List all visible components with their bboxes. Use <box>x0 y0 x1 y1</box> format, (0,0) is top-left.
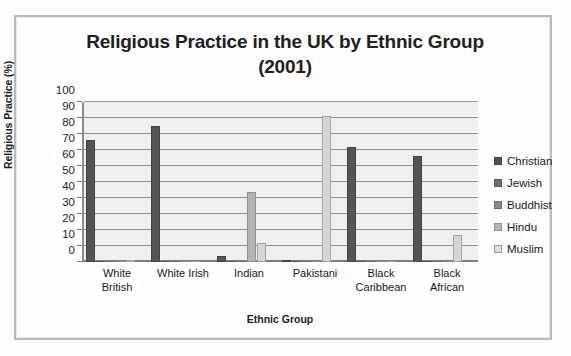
legend-swatch-muslim-icon <box>494 245 502 253</box>
bar-muslim-black-african <box>453 235 462 262</box>
y-axis-tick-label: 100 <box>56 84 75 96</box>
x-axis-tick-labels: WhiteBritishWhite IrishIndianPakistaniBl… <box>84 267 480 294</box>
legend-label: Christian <box>507 155 552 167</box>
bar-jewish-white-british <box>96 261 105 262</box>
legend-label: Muslim <box>507 243 543 255</box>
bar-buddhist-white-irish <box>171 261 180 262</box>
x-axis-tick-label-line: Indian <box>216 267 282 281</box>
x-axis-tick-label-line: African <box>414 281 480 295</box>
x-axis-tick-label-pakistani: Pakistani <box>282 267 348 294</box>
y-axis-tick-mark <box>77 165 82 166</box>
bar-group-white-british <box>86 102 151 262</box>
x-axis-tick-label-line: White Irish <box>150 267 216 281</box>
y-axis-tick-label: 20 <box>62 212 75 224</box>
bar-jewish-black-african <box>423 261 432 262</box>
legend-item-christian[interactable]: Christian <box>494 155 571 167</box>
legend-label: Jewish <box>507 177 542 189</box>
x-axis-tick-label-white-british: WhiteBritish <box>84 267 150 294</box>
x-axis-tick-label-line: White <box>84 267 150 281</box>
bar-christian-pakistani <box>282 260 291 262</box>
y-axis-tick-mark <box>77 133 82 134</box>
x-axis-tick-label-line: Black <box>348 267 414 281</box>
legend-item-buddhist[interactable]: Buddhist <box>494 199 571 211</box>
y-axis-tick-mark <box>77 101 82 102</box>
plot-wrap: 1009080706050403020100 <box>82 102 478 262</box>
legend-swatch-jewish-icon <box>494 179 502 187</box>
y-axis-tick-label: 80 <box>62 116 75 128</box>
y-axis-tick-mark <box>77 149 82 150</box>
chart-title-line-2: (2001) <box>46 54 524 79</box>
y-axis-tick-mark <box>77 213 82 214</box>
chart-page: Religious Practice in the UK by Ethnic G… <box>0 0 571 356</box>
x-axis-tick-label-white-irish: White Irish <box>150 267 216 294</box>
bars-layer <box>86 102 478 262</box>
y-axis-tick-label: 90 <box>62 100 75 112</box>
x-axis-title: Ethnic Group <box>82 313 478 325</box>
bar-jewish-pakistani <box>292 261 301 262</box>
bar-buddhist-indian <box>237 261 246 262</box>
x-axis-tick-label-indian: Indian <box>216 267 282 294</box>
bar-muslim-white-irish <box>191 261 200 262</box>
bar-group-black-african <box>413 102 478 262</box>
bar-christian-indian <box>217 256 226 262</box>
bar-buddhist-pakistani <box>302 261 311 262</box>
bar-hindu-black-african <box>443 261 452 262</box>
y-axis-tick-label: 40 <box>62 180 75 192</box>
y-axis-tick-mark <box>77 197 82 198</box>
bar-group-pakistani <box>282 102 347 262</box>
bar-hindu-black-caribbean <box>377 261 386 262</box>
bar-hindu-pakistani <box>312 261 321 262</box>
x-axis-tick-label-line: Pakistani <box>282 267 348 281</box>
y-axis-tick-mark <box>77 229 82 230</box>
bar-group-indian <box>217 102 282 262</box>
bar-hindu-white-irish <box>181 261 190 262</box>
bar-buddhist-white-british <box>106 261 115 262</box>
bar-buddhist-black-caribbean <box>367 261 376 262</box>
legend-swatch-hindu-icon <box>494 223 502 231</box>
bar-christian-white-british <box>86 140 95 262</box>
x-axis-tick-label-line: Caribbean <box>348 281 414 295</box>
x-axis-tick-label-black-caribbean: BlackCaribbean <box>348 267 414 294</box>
bar-jewish-black-caribbean <box>357 261 366 262</box>
y-axis-tick-label: 0 <box>69 244 75 256</box>
legend-swatch-christian-icon <box>494 157 502 165</box>
legend-label: Buddhist <box>507 199 552 211</box>
x-axis-tick-label-black-african: BlackAfrican <box>414 267 480 294</box>
y-axis-tick-mark <box>77 245 82 246</box>
bar-muslim-black-caribbean <box>387 261 396 262</box>
bar-hindu-white-british <box>116 261 125 262</box>
y-axis-tick-label: 60 <box>62 148 75 160</box>
y-axis-tick-mark <box>77 181 82 182</box>
chart-title-line-1: Religious Practice in the UK by Ethnic G… <box>86 31 484 52</box>
bar-hindu-indian <box>247 192 256 262</box>
legend-item-jewish[interactable]: Jewish <box>494 177 571 189</box>
chart-frame: Religious Practice in the UK by Ethnic G… <box>14 15 552 340</box>
y-axis-title: Religious Practice (%) <box>2 61 14 169</box>
legend-item-hindu[interactable]: Hindu <box>494 221 571 233</box>
bar-buddhist-black-african <box>433 261 442 262</box>
bar-group-white-irish <box>151 102 216 262</box>
y-axis-tick-mark <box>77 261 82 262</box>
y-axis-tick-label: 50 <box>62 164 75 176</box>
x-axis-tick-label-line: British <box>84 281 150 295</box>
bar-christian-black-caribbean <box>347 147 356 262</box>
legend-label: Hindu <box>507 221 537 233</box>
bar-muslim-indian <box>257 243 266 262</box>
bar-jewish-indian <box>227 261 236 262</box>
bar-group-black-caribbean <box>347 102 412 262</box>
chart-title: Religious Practice in the UK by Ethnic G… <box>46 29 524 79</box>
x-axis-tick-label-line: Black <box>414 267 480 281</box>
y-axis-tick-label: 30 <box>62 196 75 208</box>
bar-muslim-pakistani <box>322 116 331 262</box>
legend-item-muslim[interactable]: Muslim <box>494 243 571 255</box>
chart-legend: ChristianJewishBuddhistHinduMuslim <box>494 155 571 265</box>
y-axis-tick-mark <box>77 117 82 118</box>
bar-muslim-white-british <box>126 260 135 262</box>
bar-christian-white-irish <box>151 126 160 262</box>
bar-christian-black-african <box>413 156 422 262</box>
legend-swatch-buddhist-icon <box>494 201 502 209</box>
bar-jewish-white-irish <box>161 261 170 262</box>
y-axis-tick-label: 10 <box>62 228 75 240</box>
plot-area: 1009080706050403020100 <box>82 102 478 262</box>
y-axis-tick-label: 70 <box>62 132 75 144</box>
